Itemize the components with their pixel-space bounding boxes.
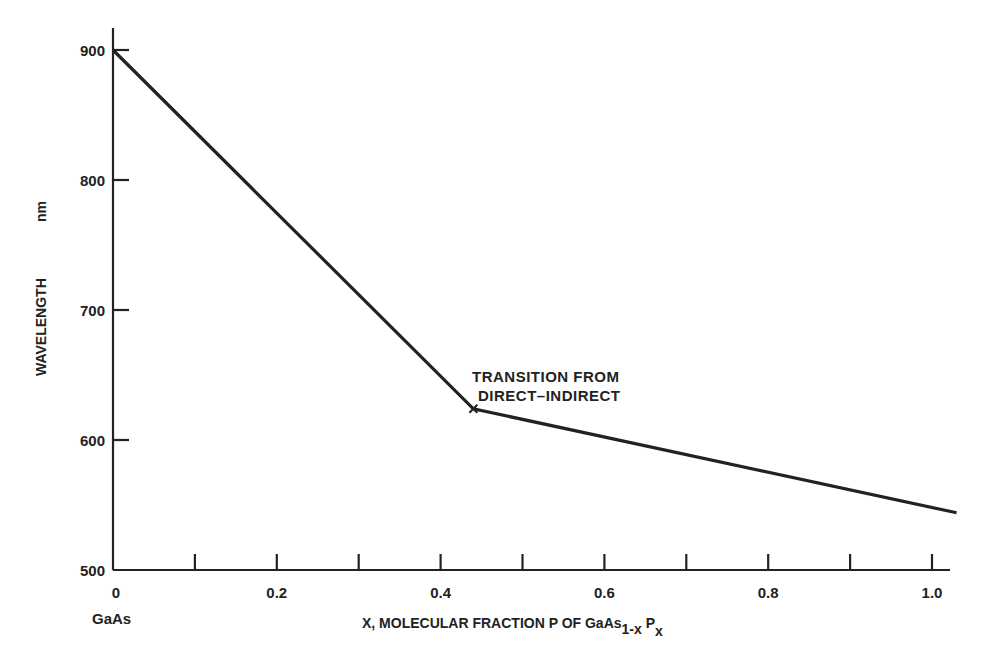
axes [113,28,950,570]
y-axis-title: WAVELENGTH [33,278,49,376]
data-series [113,50,957,513]
x-axis-title-mid: P [642,615,655,631]
x-axis-title: X, MOLECULAR FRACTION P OF GaAs1-x Px [362,615,663,639]
x-tick-label: 0.8 [758,584,779,601]
x-tick-label: 0.2 [266,584,287,601]
annotation-line-1: TRANSITION FROM [472,368,620,385]
tick-labels: 50060070080090000.20.40.60.81.0 [80,42,942,601]
x-axis-title-sub2: x [655,623,663,639]
y-tick-label: 700 [80,302,105,319]
y-tick-label: 500 [80,562,105,579]
x-tick-label: 0.6 [594,584,615,601]
x-tick-label: 1.0 [922,584,943,601]
y-axis-unit: nm [33,201,49,222]
x-axis-title-sub1: 1-x [622,621,642,637]
y-tick-label: 800 [80,172,105,189]
chart: 50060070080090000.20.40.60.81.0 WAVELENG… [0,0,993,671]
y-tick-label: 600 [80,432,105,449]
x-origin-sublabel: GaAs [92,610,131,627]
y-tick-label: 900 [80,42,105,59]
x-tick-label: 0 [112,584,120,601]
x-tick-label: 0.4 [430,584,452,601]
x-axis-title-main: X, MOLECULAR FRACTION P OF GaAs [362,615,622,631]
annotation-line-2: DIRECT–INDIRECT [478,387,621,404]
series-line [113,50,957,513]
